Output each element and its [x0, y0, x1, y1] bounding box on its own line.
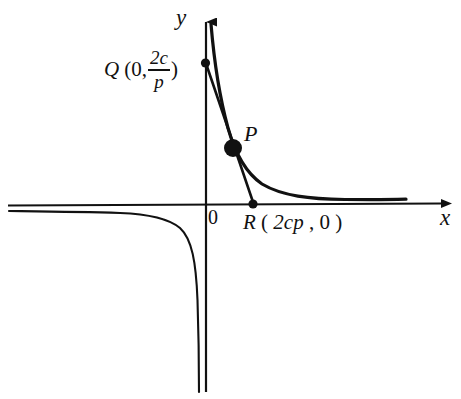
point-r-comma: ,: [309, 210, 320, 234]
hyperbola-left-branch: [9, 211, 199, 392]
point-q-fraction-denominator: p: [152, 72, 166, 92]
point-r-marker: [248, 199, 257, 208]
x-axis-label: x: [440, 206, 450, 229]
math-figure: y x 0 P Q ( 0 , 2c p ) R ( 2cp , 0 ): [0, 0, 461, 399]
point-q-close-paren: ): [171, 59, 178, 80]
origin-label: 0: [208, 207, 218, 227]
point-r-label: R ( 2cp , 0 ): [243, 212, 342, 233]
point-p-marker: [224, 139, 242, 157]
hyperbola-right-branch: [211, 24, 406, 200]
point-q-label: Q ( 0 , 2c p ): [104, 48, 178, 91]
y-axis-label: y: [176, 6, 186, 29]
point-r-x-value: 2cp: [273, 210, 303, 234]
point-q-fraction: 2c p: [148, 48, 170, 91]
x-axis-line: [8, 204, 441, 206]
point-r-y-value: 0: [319, 210, 330, 234]
point-r-letter: R: [243, 210, 256, 234]
point-q-comma: ,: [142, 59, 147, 80]
figure-canvas: [0, 0, 461, 399]
point-q-fraction-numerator: 2c: [148, 48, 170, 68]
point-q-marker: [201, 58, 210, 67]
point-q-letter: Q: [104, 59, 119, 80]
point-q-x-value: 0: [131, 59, 142, 80]
point-q-open-paren: (: [124, 59, 131, 80]
point-r-open-paren: (: [261, 210, 268, 234]
point-r-close-paren: ): [335, 210, 342, 234]
point-p-label: P: [244, 123, 257, 145]
